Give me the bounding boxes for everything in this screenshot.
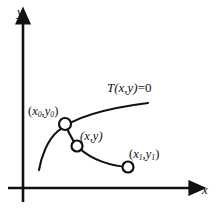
x-axis-label: x [202, 183, 208, 196]
y-axis-label: y [17, 5, 23, 18]
point-label-x1y1: (x1,y1) [129, 148, 159, 161]
curve-equation-arguments: (x,y) [114, 80, 137, 95]
curve-equation-label: T(x,y)=0 [107, 81, 152, 94]
point-label-xy: (x,y) [80, 130, 103, 143]
point-label-x0y0: (x0,y0) [28, 105, 58, 118]
paren-close: ) [54, 104, 58, 118]
paren-close: ) [155, 147, 159, 161]
point-marker-x1y1 [123, 162, 134, 173]
figure-canvas: y x T(x,y)=0 (x0,y0) (x,y) (x1,y1) [0, 0, 220, 212]
curve-equation-rhs: =0 [138, 80, 152, 95]
point-marker-x0y0 [59, 118, 71, 130]
